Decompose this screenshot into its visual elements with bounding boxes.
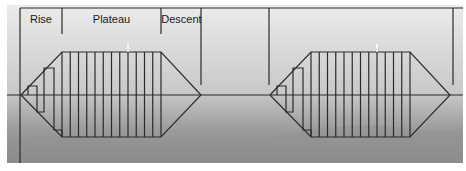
- diagram-canvas: [0, 0, 466, 171]
- phase-label-plateau: Plateau: [62, 13, 161, 25]
- phase-label-descent: Descent: [160, 13, 203, 25]
- phase-label-rise: Rise: [20, 13, 62, 25]
- pulse-train-diagram: Rise Plateau Descent: [0, 0, 466, 171]
